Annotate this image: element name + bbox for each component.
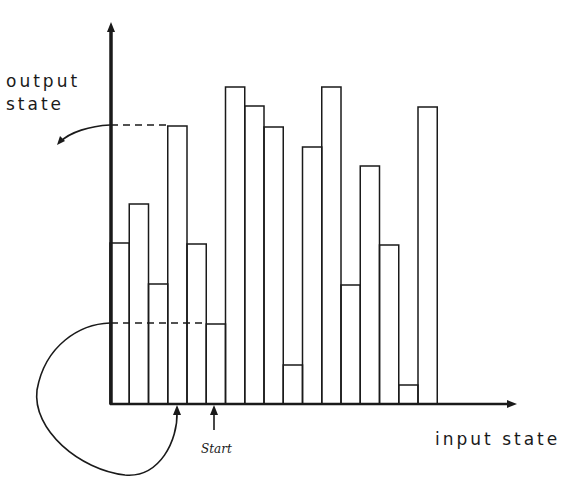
bar-4 xyxy=(168,126,187,404)
x-axis-arrowhead-icon xyxy=(507,400,517,408)
y-axis-label-line2: state xyxy=(6,93,80,116)
start-arrowhead-icon xyxy=(210,405,218,415)
start-label: Start xyxy=(201,442,232,456)
y-axis-label-line1: output xyxy=(6,70,80,93)
bar-7 xyxy=(226,87,245,404)
outgoing-curve-arrow xyxy=(60,125,110,142)
bar-14 xyxy=(360,166,379,404)
bar-3 xyxy=(149,284,168,404)
bar-15 xyxy=(380,245,399,404)
bar-17 xyxy=(418,107,437,404)
mapping-loop-curve xyxy=(37,323,177,475)
bar-5 xyxy=(187,244,206,404)
bar-10 xyxy=(283,365,302,404)
bar-9 xyxy=(264,127,283,404)
bar-2 xyxy=(129,204,148,404)
state-map-diagram xyxy=(0,0,583,496)
bar-group xyxy=(110,87,437,404)
bar-6 xyxy=(206,324,225,404)
bar-13 xyxy=(341,285,360,404)
bar-12 xyxy=(322,87,341,404)
outgoing-arrowhead-icon xyxy=(57,136,65,145)
bar-11 xyxy=(303,147,322,404)
y-axis-arrowhead-icon xyxy=(107,22,115,32)
bar-8 xyxy=(245,106,264,404)
loop-arrowhead-icon xyxy=(173,405,181,415)
bar-16 xyxy=(399,385,418,404)
y-axis-label: output state xyxy=(6,70,80,116)
x-axis-label: input state xyxy=(435,428,560,451)
